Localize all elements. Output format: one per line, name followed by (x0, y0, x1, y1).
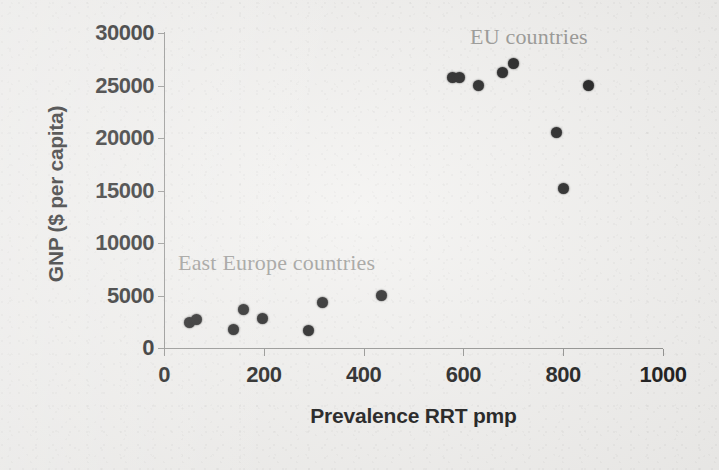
data-point (303, 325, 314, 336)
data-point (583, 80, 594, 91)
x-axis-tick-label: 600 (418, 364, 508, 386)
data-point (551, 127, 562, 138)
y-axis-tick (158, 191, 165, 192)
y-axis-tick (158, 296, 165, 297)
y-axis-tick (158, 33, 165, 34)
x-axis-tick (364, 349, 365, 356)
data-point (473, 80, 484, 91)
data-point (257, 313, 268, 324)
x-axis-tick (164, 349, 165, 356)
data-point (558, 183, 569, 194)
y-axis-tick-label: 30000 (34, 22, 154, 44)
x-axis-tick (663, 349, 664, 356)
x-axis-tick (563, 349, 564, 356)
x-axis-tick-label: 400 (319, 364, 409, 386)
scatter-plot-figure: 050001000015000200002500030000 020040060… (0, 0, 719, 470)
x-axis-title: Prevalence RRT pmp (164, 404, 663, 428)
data-point (317, 297, 328, 308)
x-axis-tick-label: 1000 (618, 364, 708, 386)
y-axis-title: GNP ($ per capita) (44, 44, 68, 344)
data-point (454, 72, 465, 83)
x-axis-tick-label: 800 (518, 364, 608, 386)
plot-area: 050001000015000200002500030000 020040060… (0, 0, 719, 470)
x-axis-line (164, 348, 663, 349)
x-axis-tick (264, 349, 265, 356)
data-point (497, 67, 508, 78)
data-point (228, 324, 239, 335)
y-axis-tick (158, 243, 165, 244)
data-point (238, 304, 249, 315)
x-axis-tick (463, 349, 464, 356)
x-axis-tick-label: 0 (119, 364, 209, 386)
annotation-eu-countries: EU countries (470, 24, 588, 50)
x-axis-tick-label: 200 (219, 364, 309, 386)
data-point (191, 314, 202, 325)
y-axis-tick (158, 138, 165, 139)
data-point (376, 290, 387, 301)
data-point (508, 58, 519, 69)
y-axis-tick (158, 86, 165, 87)
annotation-east-europe-countries: East Europe countries (178, 250, 375, 276)
